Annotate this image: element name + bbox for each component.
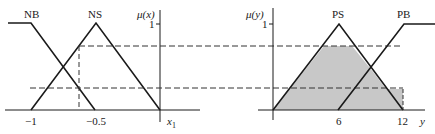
pb-label: PB xyxy=(397,8,410,20)
aggregated-output-region xyxy=(273,46,403,110)
ns-membership-curve xyxy=(31,23,160,110)
tick-6: 6 xyxy=(336,115,342,127)
y-axis-label: y xyxy=(419,115,425,127)
nb-membership-curve xyxy=(8,23,95,110)
left-one-label: 1 xyxy=(149,18,155,30)
x1-axis-label: x1 xyxy=(166,115,176,130)
tick-minus-1: −1 xyxy=(25,115,37,127)
ns-label: NS xyxy=(88,8,102,20)
right-one-label: 1 xyxy=(262,18,268,30)
fuzzy-inference-diagram: NB NS μ(x) 1 −1 −0.5 x1 μ(y) 1 PS PB 6 1… xyxy=(0,0,435,134)
ps-label: PS xyxy=(332,8,344,20)
nb-label: NB xyxy=(24,8,39,20)
tick-12: 12 xyxy=(397,115,408,127)
tick-minus-0-5: −0.5 xyxy=(86,115,106,127)
